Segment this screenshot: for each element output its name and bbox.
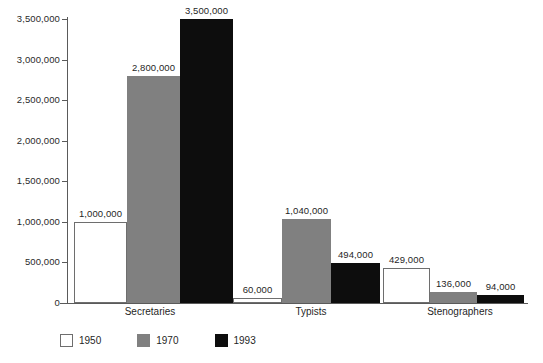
value-label-stenographers-1950: 429,000 [370, 254, 443, 265]
legend-item-1993: 1993 [215, 334, 256, 347]
legend-label-1993: 1993 [234, 335, 256, 346]
plot-area: 1,000,0002,800,0003,500,00060,0001,040,0… [0, 0, 543, 303]
x-axis-line [60, 303, 528, 304]
category-label-stenographers: Stenographers [385, 306, 535, 317]
bar-chart: 0500,0001,000,0001,500,0002,000,0002,500… [0, 0, 543, 363]
value-label-stenographers-1993: 94,000 [464, 281, 537, 292]
category-label-secretaries: Secretaries [60, 306, 240, 317]
legend-label-1970: 1970 [156, 335, 178, 346]
bar-typists-1950 [233, 298, 282, 303]
bar-typists-1993 [331, 263, 380, 303]
value-label-typists-1970: 1,040,000 [269, 205, 344, 216]
category-label-typists: Typists [236, 306, 386, 317]
legend-item-1970: 1970 [137, 334, 178, 347]
bar-stenographers-1970 [430, 292, 477, 303]
bar-secretaries-1950 [74, 222, 127, 303]
bar-secretaries-1993 [180, 19, 233, 303]
legend-swatch-1970-icon [137, 334, 150, 347]
legend-label-1950: 1950 [79, 335, 101, 346]
legend-item-1950: 1950 [60, 334, 101, 347]
legend-swatch-1993-icon [215, 334, 228, 347]
legend: 1950 1970 1993 [60, 334, 256, 347]
bar-typists-1970 [282, 219, 331, 303]
value-label-secretaries-1993: 3,500,000 [167, 5, 246, 16]
bar-secretaries-1970 [127, 76, 180, 303]
bar-stenographers-1993 [477, 295, 524, 303]
legend-swatch-1950-icon [60, 334, 73, 347]
